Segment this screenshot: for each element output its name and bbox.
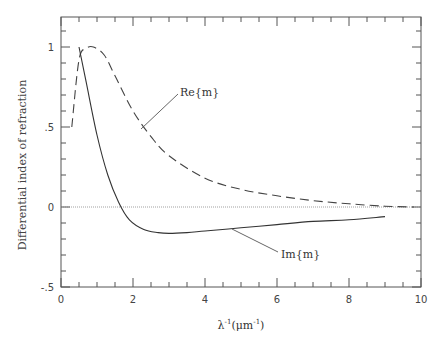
x-axis-label: λ-1(μm-1) xyxy=(218,318,265,332)
svg-text:.5: .5 xyxy=(44,122,54,133)
plot-frame xyxy=(61,17,421,287)
x-label-close: ) xyxy=(260,319,264,332)
im-annotation: Im{m} xyxy=(281,248,320,261)
im-annotation-leader xyxy=(232,229,278,252)
x-label-lambda: λ xyxy=(218,319,225,332)
svg-text:2: 2 xyxy=(130,294,136,305)
svg-text:1: 1 xyxy=(48,42,54,53)
tick-labels: 0246810-.50.51 xyxy=(41,42,428,305)
svg-text:-.5: -.5 xyxy=(41,282,54,293)
svg-text:6: 6 xyxy=(274,294,280,305)
x-label-unit: (μm xyxy=(231,319,253,332)
chart-plot: 0246810-.50.51 Re{m} Im{m} xyxy=(0,0,439,352)
svg-text:10: 10 xyxy=(415,294,428,305)
x-label-exp2: -1 xyxy=(253,318,260,326)
y-axis-label: Differential index of refraction xyxy=(16,80,29,251)
re-m-curve xyxy=(72,46,414,207)
axis-ticks xyxy=(61,17,421,287)
svg-text:8: 8 xyxy=(346,294,352,305)
re-annotation-leader xyxy=(141,94,178,129)
svg-text:0: 0 xyxy=(48,202,54,213)
re-annotation: Re{m} xyxy=(180,86,219,99)
x-label-exp1: -1 xyxy=(225,318,232,326)
im-m-curve xyxy=(79,47,385,233)
svg-text:0: 0 xyxy=(58,294,64,305)
svg-text:4: 4 xyxy=(202,294,208,305)
